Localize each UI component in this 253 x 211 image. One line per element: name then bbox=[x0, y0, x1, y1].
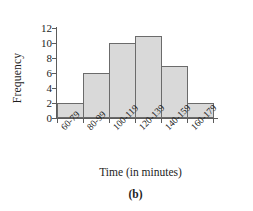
x-tick-mark bbox=[57, 119, 58, 123]
x-tick-mark bbox=[135, 119, 136, 123]
x-tick-mark bbox=[109, 119, 110, 123]
histogram-bar bbox=[83, 73, 110, 118]
x-tick-mark bbox=[161, 119, 162, 123]
x-tick-mark bbox=[187, 119, 188, 123]
x-tick-mark bbox=[83, 119, 84, 123]
histogram-figure: Frequency 024681012 60-7980-99100-119120… bbox=[0, 0, 253, 211]
y-axis-tick-labels: 024681012 bbox=[30, 21, 52, 125]
y-axis-title: Frequency bbox=[11, 30, 23, 126]
x-tick-mark bbox=[213, 119, 214, 123]
x-axis-tick-labels: 60-7980-99100-119120-139140-159160-179 bbox=[0, 118, 253, 166]
y-tick-mark bbox=[52, 43, 57, 44]
figure-caption: (b) bbox=[0, 188, 253, 200]
y-tick-mark bbox=[52, 88, 57, 89]
y-tick-mark bbox=[52, 58, 57, 59]
y-tick-label: 10 bbox=[41, 38, 52, 49]
y-tick-label: 12 bbox=[41, 23, 52, 34]
y-tick-mark bbox=[52, 103, 57, 104]
y-tick-mark bbox=[52, 28, 57, 29]
x-axis-title: Time (in minutes) bbox=[0, 166, 253, 178]
y-tick-mark bbox=[52, 73, 57, 74]
